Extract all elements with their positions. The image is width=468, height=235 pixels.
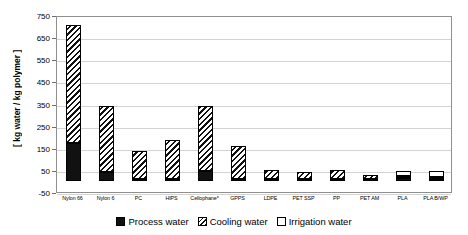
y-axis-tick-mark xyxy=(52,193,56,194)
y-axis-tick-label: 650 xyxy=(10,34,50,43)
legend-label: Process water xyxy=(128,216,188,227)
bar-segment-process-water xyxy=(66,143,81,181)
bar xyxy=(429,171,444,181)
bar-segment-process-water xyxy=(363,179,378,181)
chart-legend: Process water Cooling water Irrigation w… xyxy=(0,216,468,227)
x-axis-tick-label: HIPS xyxy=(165,195,177,201)
x-axis-tick-label: PET AM xyxy=(360,195,379,201)
x-axis-tick-label: PP xyxy=(333,195,340,201)
x-axis-tick-label: Nylon 66 xyxy=(62,195,82,201)
bar-segment-process-water xyxy=(330,179,345,181)
y-axis-tick-label: 450 xyxy=(10,78,50,87)
bar xyxy=(231,146,246,181)
legend-item-irrigation-water: Irrigation water xyxy=(277,216,352,227)
bar-segment-process-water xyxy=(132,179,147,181)
solid-black-swatch-icon xyxy=(116,217,125,226)
bar-segment-cooling-water xyxy=(330,170,345,179)
bar xyxy=(396,171,411,181)
bar xyxy=(165,140,180,181)
bar xyxy=(66,25,81,181)
bar-segment-process-water xyxy=(264,179,279,181)
chart-root: [ kg water / kg polymer ] 75065055045035… xyxy=(0,0,468,235)
hatched-swatch-icon xyxy=(198,217,207,226)
bar-segment-cooling-water xyxy=(198,106,213,171)
x-axis-tick-label: Cellophane* xyxy=(190,195,218,201)
bar-segment-cooling-water xyxy=(264,170,279,179)
x-axis-tick-label: PC xyxy=(135,195,142,201)
x-axis-tick-labels: Nylon 66Nylon 6PCHIPSCellophane*GPPSLDPE… xyxy=(56,195,452,209)
legend-item-cooling-water: Cooling water xyxy=(198,216,268,227)
bar-segment-process-water xyxy=(99,172,114,181)
bar-segment-process-water xyxy=(198,171,213,181)
x-axis-tick-label: Nylon 6 xyxy=(97,195,115,201)
bar xyxy=(264,170,279,181)
bar xyxy=(363,175,378,181)
white-swatch-icon xyxy=(277,217,286,226)
legend-label: Cooling water xyxy=(210,216,268,227)
bar-segment-process-water xyxy=(429,179,444,181)
bar xyxy=(132,151,147,181)
bar-segment-process-water xyxy=(165,179,180,181)
legend-label: Irrigation water xyxy=(289,216,352,227)
bar xyxy=(99,106,114,181)
x-axis-tick-label: PLA xyxy=(398,195,408,201)
bar-segment-cooling-water xyxy=(297,172,312,179)
bar-group xyxy=(57,17,451,192)
y-axis-tick-label: 550 xyxy=(10,56,50,65)
bar-segment-process-water xyxy=(396,178,411,181)
y-axis-tick-label: 150 xyxy=(10,144,50,153)
x-axis-tick-label: GPPS xyxy=(230,195,245,201)
bar-segment-cooling-water xyxy=(99,106,114,172)
bar-segment-cooling-water xyxy=(66,25,81,143)
bar xyxy=(330,170,345,181)
x-axis-tick-label: PLA B/WP xyxy=(423,195,447,201)
y-axis-tick-label: 50 xyxy=(10,166,50,175)
bar-segment-cooling-water xyxy=(165,140,180,179)
bar-segment-cooling-water xyxy=(132,151,147,179)
y-axis-tick-label: -50 xyxy=(10,189,50,198)
x-axis-tick-label: LDPE xyxy=(264,195,278,201)
y-axis-tick-label: 250 xyxy=(10,122,50,131)
plot-area xyxy=(56,16,452,193)
y-axis-tick-label: 750 xyxy=(10,12,50,21)
bar-segment-process-water xyxy=(297,179,312,181)
x-axis-tick-label: PET SSP xyxy=(293,195,315,201)
bar-segment-process-water xyxy=(231,179,246,181)
bar xyxy=(198,106,213,181)
bar xyxy=(297,172,312,181)
legend-item-process-water: Process water xyxy=(116,216,188,227)
bar-segment-cooling-water xyxy=(231,146,246,179)
y-axis-tick-label: 350 xyxy=(10,100,50,109)
